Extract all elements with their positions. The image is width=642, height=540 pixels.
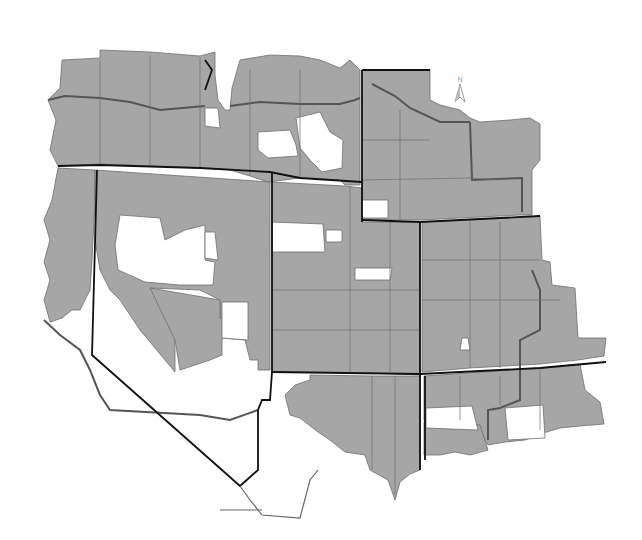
north-arrow: N (452, 76, 468, 106)
outer-coastline (220, 470, 318, 518)
north-label: N (452, 76, 468, 83)
north-arrow-icon (454, 84, 466, 102)
county-map (0, 0, 642, 540)
